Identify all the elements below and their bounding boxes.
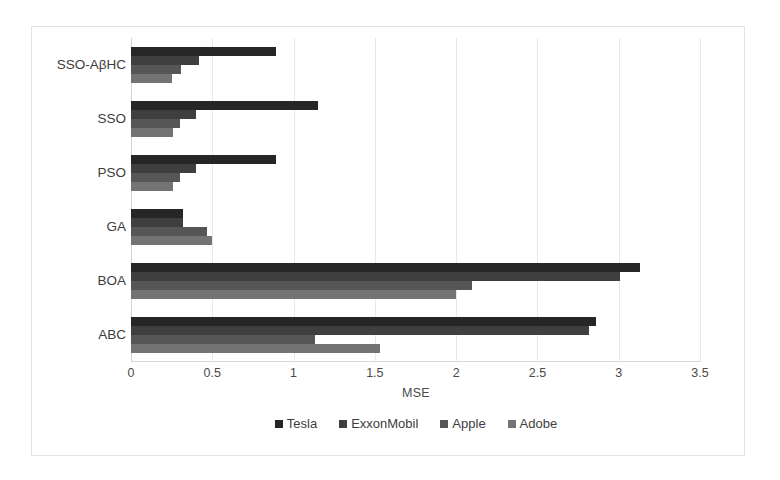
y-axis-label: PSO — [30, 166, 126, 180]
x-axis-tick-labels: 00.511.522.533.5 — [131, 366, 701, 386]
x-axis-tick-label: 0 — [128, 366, 135, 380]
bar[interactable] — [131, 263, 640, 272]
y-axis-label: SSO — [30, 112, 126, 126]
bar[interactable] — [131, 74, 172, 83]
bar-row — [131, 344, 700, 353]
y-axis-label: SSO-AβHC — [30, 58, 126, 72]
bar[interactable] — [131, 335, 315, 344]
bar[interactable] — [131, 290, 456, 299]
x-axis-tick-label: 1 — [290, 366, 297, 380]
bar-row — [131, 326, 700, 335]
bar[interactable] — [131, 281, 472, 290]
bar-row — [131, 209, 700, 218]
x-axis-tick-label: 2.5 — [529, 366, 546, 380]
chart-legend: TeslaExxonMobilAppleAdobe — [131, 417, 701, 430]
bar[interactable] — [131, 110, 196, 119]
bar[interactable] — [131, 344, 380, 353]
bar-row — [131, 290, 700, 299]
bar-row — [131, 110, 700, 119]
bar[interactable] — [131, 119, 180, 128]
bar-row — [131, 164, 700, 173]
legend-swatch-icon — [508, 420, 516, 428]
bar-group — [131, 146, 700, 200]
bar-group — [131, 200, 700, 254]
bar[interactable] — [131, 272, 620, 281]
chart-figure: SSO-AβHCSSOPSOGABOAABC 00.511.522.533.5 … — [0, 0, 780, 480]
legend-label: Tesla — [287, 417, 317, 430]
bar-row — [131, 173, 700, 182]
bar[interactable] — [131, 128, 173, 137]
bar-row — [131, 272, 700, 281]
bar-row — [131, 65, 700, 74]
bar-row — [131, 281, 700, 290]
y-axis-category-labels: SSO-AβHCSSOPSOGABOAABC — [28, 38, 126, 362]
bar[interactable] — [131, 56, 199, 65]
bar-group — [131, 308, 700, 362]
bar[interactable] — [131, 236, 212, 245]
legend-item[interactable]: ExxonMobil — [339, 417, 418, 430]
legend-item[interactable]: Adobe — [508, 417, 558, 430]
bar[interactable] — [131, 65, 181, 74]
legend-item[interactable]: Tesla — [275, 417, 317, 430]
legend-swatch-icon — [275, 420, 283, 428]
bar-row — [131, 128, 700, 137]
bar-row — [131, 218, 700, 227]
bar[interactable] — [131, 326, 589, 335]
x-axis-tick-label: 3 — [615, 366, 622, 380]
bar-row — [131, 263, 700, 272]
x-axis-tick-label: 1.5 — [366, 366, 383, 380]
bar[interactable] — [131, 218, 183, 227]
legend-swatch-icon — [339, 420, 347, 428]
plot-area — [131, 38, 700, 362]
bar-row — [131, 74, 700, 83]
bar[interactable] — [131, 173, 180, 182]
bar-row — [131, 335, 700, 344]
legend-label: Apple — [452, 417, 485, 430]
bar-row — [131, 236, 700, 245]
bar[interactable] — [131, 209, 183, 218]
bar-group — [131, 38, 700, 92]
bar-row — [131, 227, 700, 236]
bar-row — [131, 155, 700, 164]
bar[interactable] — [131, 155, 276, 164]
y-axis-label: ABC — [30, 328, 126, 342]
y-axis-label: BOA — [30, 274, 126, 288]
legend-label: ExxonMobil — [351, 417, 418, 430]
bar-row — [131, 101, 700, 110]
legend-label: Adobe — [520, 417, 558, 430]
bar-row — [131, 47, 700, 56]
gridline-3.5 — [700, 38, 701, 362]
bar-row — [131, 317, 700, 326]
x-axis-title: MSE — [131, 386, 701, 400]
bar[interactable] — [131, 164, 196, 173]
bar[interactable] — [131, 227, 207, 236]
bar-group — [131, 254, 700, 308]
bar[interactable] — [131, 182, 173, 191]
y-axis-label: GA — [30, 220, 126, 234]
legend-swatch-icon — [440, 420, 448, 428]
bar[interactable] — [131, 47, 276, 56]
legend-item[interactable]: Apple — [440, 417, 485, 430]
x-axis-line — [131, 361, 701, 362]
bar-row — [131, 56, 700, 65]
bar[interactable] — [131, 317, 596, 326]
bar-row — [131, 119, 700, 128]
x-axis-tick-label: 0.5 — [204, 366, 221, 380]
bar[interactable] — [131, 101, 318, 110]
x-axis-tick-label: 2 — [453, 366, 460, 380]
bar-group — [131, 92, 700, 146]
bar-row — [131, 182, 700, 191]
x-axis-tick-label: 3.5 — [691, 366, 708, 380]
